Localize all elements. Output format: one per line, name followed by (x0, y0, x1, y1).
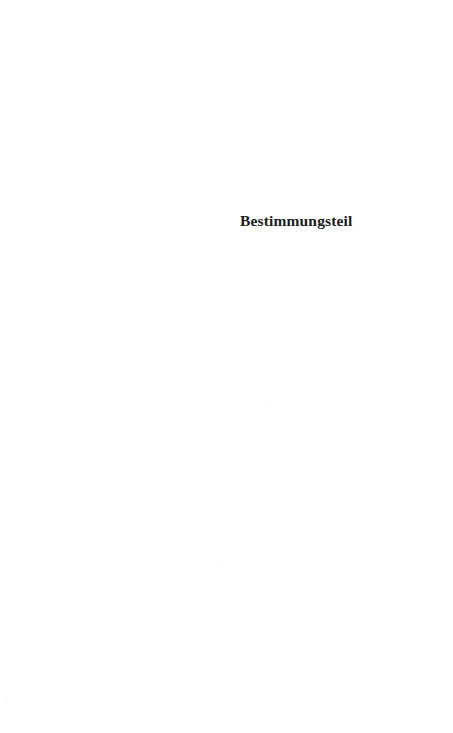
part-title-heading: Bestimmungsteil (240, 212, 352, 230)
scan-speck-artifact (371, 710, 374, 713)
scan-speck-artifact (218, 563, 222, 566)
scan-speck-artifact (414, 264, 417, 268)
scanned-book-page: Bestimmungsteil (0, 0, 453, 733)
scan-speck-artifact (266, 404, 269, 408)
scan-speck-artifact (190, 695, 195, 697)
scan-speck-artifact (5, 695, 8, 703)
scan-speck-artifact (348, 429, 350, 435)
